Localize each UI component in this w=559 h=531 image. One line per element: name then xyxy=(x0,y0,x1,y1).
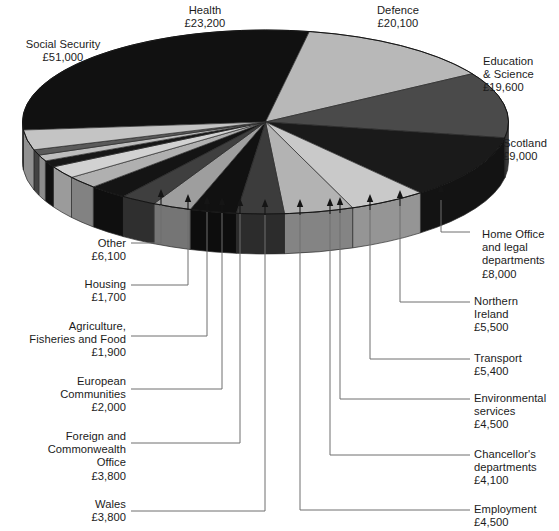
callout-label-transport: Transport £5,400 xyxy=(474,352,559,378)
callout-label-environmental-services: Environmental services £4,500 xyxy=(474,392,559,432)
callout-label-scotland: Scotland £9,000 xyxy=(503,137,559,163)
callout-label-employment: Employment £4,500 xyxy=(474,503,559,529)
callout-label-social-security: Social Security £51,000 xyxy=(0,38,126,64)
callout-label-foreign-commonwealth-office: Foreign and Commonwealth Office £3,800 xyxy=(10,430,126,483)
callout-label-other: Other £6,100 xyxy=(10,237,126,263)
callout-label-chancellors-departments: Chancellor's departments £4,100 xyxy=(474,448,559,488)
callout-label-defence: Defence £20,100 xyxy=(343,4,453,30)
leader-line xyxy=(300,215,470,510)
callout-label-home-office-legal: Home Office and legal departments £8,000 xyxy=(482,228,559,281)
callout-label-housing: Housing £1,700 xyxy=(10,278,126,304)
callout-label-northern-ireland: Northern Ireland £5,500 xyxy=(474,295,559,335)
callout-label-agriculture-fisheries-food: Agriculture, Fisheries and Food £1,900 xyxy=(4,320,126,360)
callout-label-european-communities: European Communities £2,000 xyxy=(10,375,126,415)
callout-label-health: Health £23,200 xyxy=(150,4,260,30)
callout-label-education-science: Education & Science £19,600 xyxy=(483,55,559,95)
pie-chart-figure: Health £23,200 Defence £20,100 Social Se… xyxy=(0,0,559,531)
callout-label-wales: Wales £3,800 xyxy=(10,498,126,524)
leader-line xyxy=(131,215,265,511)
